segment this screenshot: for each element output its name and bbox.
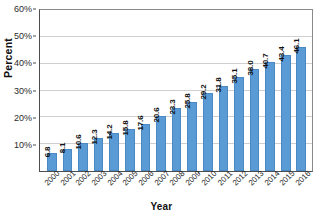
bar-slot: 35.1 bbox=[231, 10, 247, 171]
bar[interactable]: 14.2 bbox=[109, 133, 119, 171]
bar-slot: 23.3 bbox=[169, 10, 185, 171]
bar-value-label: 29.2 bbox=[199, 84, 208, 99]
x-axis-title: Year bbox=[0, 201, 323, 212]
y-tick-label: 20% bbox=[14, 113, 32, 123]
x-tick-slot: 2011 bbox=[216, 174, 232, 202]
bar-value-label: 46.1 bbox=[292, 39, 301, 54]
bar-value-label: 23.3 bbox=[168, 100, 177, 115]
bar-slot: 20.6 bbox=[153, 10, 169, 171]
x-tick-slot: 2002 bbox=[74, 174, 90, 202]
bar-value-label: 8.1 bbox=[58, 143, 67, 154]
y-tick-label: 60% bbox=[14, 4, 32, 14]
y-tick-mark bbox=[33, 36, 36, 37]
x-tick-slot: 2006 bbox=[137, 174, 153, 202]
bar[interactable]: 23.3 bbox=[172, 108, 182, 171]
x-tick-slot: 2008 bbox=[169, 174, 185, 202]
x-tick-slot: 2009 bbox=[184, 174, 200, 202]
y-tick-label: 40% bbox=[14, 58, 32, 68]
x-tick-slot: 2012 bbox=[231, 174, 247, 202]
x-tick-slot: 2007 bbox=[153, 174, 169, 202]
bar-value-label: 38.0 bbox=[246, 61, 255, 76]
bar[interactable]: 35.1 bbox=[234, 77, 244, 171]
x-axis-tick-labels: 2000200120022003200420052006200720082009… bbox=[39, 174, 313, 202]
bar-slot: 31.8 bbox=[216, 10, 232, 171]
x-tick-slot: 2003 bbox=[90, 174, 106, 202]
bar[interactable]: 43.4 bbox=[281, 55, 291, 171]
bar-value-label: 31.8 bbox=[214, 77, 223, 92]
bar-value-label: 10.6 bbox=[74, 134, 83, 149]
y-tick-mark bbox=[33, 144, 36, 145]
x-tick-slot: 2005 bbox=[122, 174, 138, 202]
bar[interactable]: 17.6 bbox=[141, 124, 151, 171]
bar-slot: 38.0 bbox=[247, 10, 263, 171]
bar-value-label: 12.3 bbox=[90, 130, 99, 145]
bar-slot: 14.2 bbox=[106, 10, 122, 171]
plot-area: 6.88.110.612.314.215.817.620.623.325.829… bbox=[39, 9, 313, 172]
bars-container: 6.88.110.612.314.215.817.620.623.325.829… bbox=[40, 10, 312, 171]
y-tick-label: 30% bbox=[14, 86, 32, 96]
bar[interactable]: 40.7 bbox=[265, 62, 275, 171]
y-tick-mark bbox=[33, 117, 36, 118]
x-tick-slot: 2010 bbox=[200, 174, 216, 202]
x-tick-slot: 2000 bbox=[43, 174, 59, 202]
bar-value-label: 17.6 bbox=[136, 115, 145, 130]
bar-value-label: 25.8 bbox=[183, 93, 192, 108]
bar-slot: 46.1 bbox=[294, 10, 310, 171]
bar[interactable]: 20.6 bbox=[156, 116, 166, 171]
x-tick-slot: 2016 bbox=[294, 174, 310, 202]
bar-value-label: 20.6 bbox=[152, 107, 161, 122]
bar[interactable]: 46.1 bbox=[296, 47, 306, 171]
bar[interactable]: 31.8 bbox=[219, 86, 229, 171]
bar-slot: 12.3 bbox=[91, 10, 107, 171]
x-tick-slot: 2014 bbox=[263, 174, 279, 202]
bar[interactable]: 25.8 bbox=[187, 102, 197, 171]
x-tick-slot: 2001 bbox=[59, 174, 75, 202]
y-tick-label: 50% bbox=[14, 31, 32, 41]
bar-slot: 43.4 bbox=[278, 10, 294, 171]
bar[interactable]: 12.3 bbox=[94, 138, 104, 171]
bar-slot: 40.7 bbox=[262, 10, 278, 171]
x-tick-slot: 2013 bbox=[247, 174, 263, 202]
bar-slot: 8.1 bbox=[60, 10, 76, 171]
x-tick-slot: 2015 bbox=[279, 174, 295, 202]
bar-slot: 15.8 bbox=[122, 10, 138, 171]
bar-slot: 17.6 bbox=[138, 10, 154, 171]
y-tick-mark bbox=[33, 9, 36, 10]
y-tick-label: 10% bbox=[14, 140, 32, 150]
bar[interactable]: 29.2 bbox=[203, 93, 213, 171]
x-tick-slot: 2004 bbox=[106, 174, 122, 202]
bar-value-label: 40.7 bbox=[261, 53, 270, 68]
bar-value-label: 15.8 bbox=[121, 120, 130, 135]
bar-value-label: 35.1 bbox=[230, 68, 239, 83]
bar-value-label: 6.8 bbox=[43, 147, 52, 158]
bar[interactable]: 10.6 bbox=[78, 143, 88, 171]
y-axis-tick-labels: 10%20%30%40%50%60% bbox=[0, 9, 36, 172]
bar-chart: Percent 10%20%30%40%50%60% 6.88.110.612.… bbox=[0, 0, 323, 213]
bar-slot: 10.6 bbox=[75, 10, 91, 171]
bar-value-label: 43.4 bbox=[277, 46, 286, 61]
y-tick-mark bbox=[33, 63, 36, 64]
bar-slot: 25.8 bbox=[184, 10, 200, 171]
bar[interactable]: 15.8 bbox=[125, 129, 135, 171]
y-tick-mark bbox=[33, 90, 36, 91]
bar[interactable]: 38.0 bbox=[250, 69, 260, 171]
bar-value-label: 14.2 bbox=[105, 125, 114, 140]
